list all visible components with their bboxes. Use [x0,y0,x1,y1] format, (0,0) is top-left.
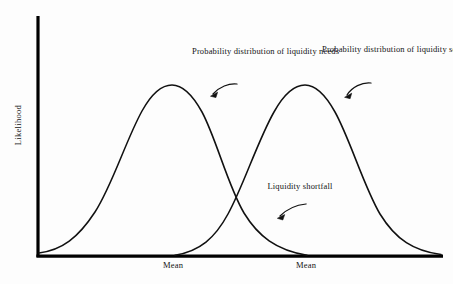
x-tick-label-mean-sources: Mean [283,260,329,271]
annotation-liquidity-sources: Probability distribution of liquidity so… [322,44,422,55]
x-tick-label-mean-needs: Mean [150,260,196,271]
annotation-liquidity-needs: Probability distribution of liquidity ne… [192,46,284,57]
needs-annotation-arrow [211,84,238,98]
annotation-liquidity-shortfall: Liquidity shortfall [264,181,336,192]
figure-container: Likelihood Probability distribution of l… [0,0,453,284]
distribution-plot [0,0,453,284]
liquidity-sources-curve [175,85,441,255]
sources-annotation-arrow [345,83,371,99]
shortfall-annotation-arrow [277,204,306,220]
y-axis-label: Likelihood [13,85,23,165]
liquidity-needs-curve [39,85,307,255]
